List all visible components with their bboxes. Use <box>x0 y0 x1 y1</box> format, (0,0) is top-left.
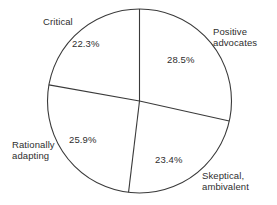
slice-value-rationally-adapting: 25.9% <box>69 134 96 145</box>
slice-value-positive-advocates: 28.5% <box>167 54 194 65</box>
slice-value-critical: 22.3% <box>72 38 99 49</box>
pie-chart-screenshot: Positive advocates 28.5% Skeptical, ambi… <box>0 0 277 205</box>
slice-value-skeptical-ambivalent: 23.4% <box>155 154 182 165</box>
slice-label-rationally-adapting: Rationally adapting <box>12 139 55 161</box>
slice-label-positive-advocates: Positive advocates <box>213 26 257 48</box>
slice-label-critical: Critical <box>43 16 73 27</box>
slice-label-skeptical-ambivalent: Skeptical, ambivalent <box>202 170 249 192</box>
